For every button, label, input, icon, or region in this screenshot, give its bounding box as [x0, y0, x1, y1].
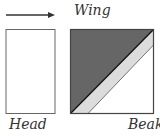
- beak-label: Beak: [128, 117, 160, 131]
- beak-box: [71, 30, 154, 114]
- head-box: [6, 30, 55, 114]
- arrow-right-icon: [6, 12, 55, 18]
- head-label: Head: [9, 117, 47, 131]
- wing-label: Wing: [74, 3, 111, 17]
